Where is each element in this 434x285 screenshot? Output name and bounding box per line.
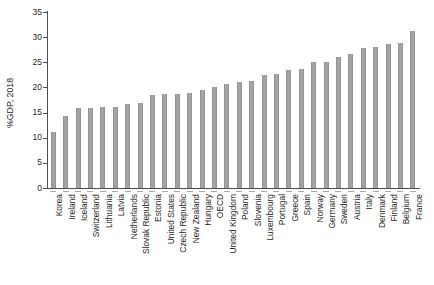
- y-tick-25: [43, 62, 47, 63]
- y-tick-label-0: 0: [16, 184, 42, 193]
- y-tick-20: [43, 87, 47, 88]
- bar-spain: [299, 69, 304, 188]
- x-tick-united-states: [162, 191, 168, 192]
- x-label-slovak-republic: Slovak Republic: [140, 194, 152, 279]
- x-label-luxembourg: Luxembourg: [264, 194, 276, 279]
- x-tick-germany: [323, 191, 329, 192]
- bar-new-zealand: [187, 93, 192, 188]
- bar-united-states: [162, 94, 167, 188]
- x-tick-oecd: [211, 191, 217, 192]
- x-tick-austria: [348, 191, 354, 192]
- x-tick-slovenia: [249, 191, 255, 192]
- x-tick-united-kingdom: [224, 191, 230, 192]
- x-tick-poland: [236, 191, 242, 192]
- x-label-austria: Austria: [351, 194, 363, 279]
- x-label-germany: Germany: [326, 194, 338, 279]
- y-tick-10: [43, 138, 47, 139]
- bar-luxembourg: [262, 75, 267, 188]
- x-label-ireland: Ireland: [66, 194, 78, 279]
- x-tick-luxembourg: [261, 191, 267, 192]
- x-label-norway: Norway: [314, 194, 326, 279]
- x-tick-czech-republic: [174, 191, 180, 192]
- y-axis-title: %GDP, 2018: [4, 58, 16, 148]
- x-tick-france: [410, 191, 416, 192]
- bar-oecd: [212, 87, 217, 188]
- x-tick-iceland: [75, 191, 81, 192]
- x-tick-latvia: [112, 191, 118, 192]
- x-tick-estonia: [149, 191, 155, 192]
- x-label-italy: Italy: [363, 194, 375, 279]
- y-tick-label-35: 35: [16, 8, 42, 17]
- x-label-new-zealand: New Zealand: [190, 194, 202, 279]
- x-label-belgium: Belgium: [400, 194, 412, 279]
- bar-switzerland: [88, 108, 93, 188]
- x-label-united-kingdom: United Kingdom: [227, 194, 239, 279]
- bar-czech-republic: [175, 94, 180, 188]
- y-tick-label-20: 20: [16, 83, 42, 92]
- bar-estonia: [150, 95, 155, 188]
- x-label-greece: Greece: [289, 194, 301, 279]
- bar-united-kingdom: [224, 84, 229, 188]
- x-tick-ireland: [63, 191, 69, 192]
- x-tick-slovak-republic: [137, 191, 143, 192]
- bar-latvia: [113, 107, 118, 188]
- bar-belgium: [398, 43, 403, 188]
- x-label-iceland: Iceland: [78, 194, 90, 279]
- bar-slovenia: [249, 81, 254, 188]
- x-label-poland: Poland: [239, 194, 251, 279]
- x-label-latvia: Latvia: [115, 194, 127, 279]
- x-tick-new-zealand: [187, 191, 193, 192]
- x-label-lithuania: Lithuania: [103, 194, 115, 279]
- bar-netherlands: [125, 104, 130, 188]
- x-tick-denmark: [373, 191, 379, 192]
- x-label-estonia: Estonia: [152, 194, 164, 279]
- x-label-united-states: United States: [165, 194, 177, 279]
- y-tick-label-30: 30: [16, 33, 42, 42]
- bar-iceland: [76, 108, 81, 188]
- y-tick-label-5: 5: [16, 158, 42, 167]
- y-tick-15: [43, 113, 47, 114]
- x-tick-netherlands: [125, 191, 131, 192]
- x-tick-korea: [50, 191, 56, 192]
- x-tick-lithuania: [100, 191, 106, 192]
- x-label-france: France: [413, 194, 425, 279]
- x-tick-greece: [286, 191, 292, 192]
- x-tick-norway: [311, 191, 317, 192]
- y-tick-5: [43, 163, 47, 164]
- bar-chart: %GDP, 2018 05101520253035 KoreaIrelandIc…: [0, 0, 434, 285]
- bar-denmark: [373, 47, 378, 188]
- y-tick-0: [43, 188, 47, 189]
- bar-germany: [324, 62, 329, 188]
- y-tick-label-25: 25: [16, 58, 42, 67]
- bar-portugal: [274, 74, 279, 188]
- y-tick-label-15: 15: [16, 108, 42, 117]
- bar-sweden: [336, 57, 341, 188]
- y-axis-line: [47, 11, 48, 189]
- bar-lithuania: [100, 107, 105, 188]
- bar-france: [410, 31, 415, 188]
- x-label-portugal: Portugal: [276, 194, 288, 279]
- x-label-sweden: Sweden: [338, 194, 350, 279]
- bar-finland: [386, 44, 391, 188]
- x-label-finland: Finland: [388, 194, 400, 279]
- bar-slovak-republic: [138, 103, 143, 188]
- x-label-slovenia: Slovenia: [252, 194, 264, 279]
- bar-austria: [348, 54, 353, 188]
- y-tick-30: [43, 37, 47, 38]
- bar-greece: [286, 70, 291, 188]
- x-label-denmark: Denmark: [376, 194, 388, 279]
- x-label-oecd: OECD: [214, 194, 226, 279]
- bar-korea: [51, 132, 56, 188]
- bar-italy: [361, 48, 366, 188]
- bar-hungary: [200, 90, 205, 188]
- x-label-switzerland: Switzerland: [90, 194, 102, 279]
- x-label-korea: Korea: [53, 194, 65, 279]
- x-label-czech-republic: Czech Republic: [177, 194, 189, 279]
- y-tick-label-10: 10: [16, 133, 42, 142]
- x-label-netherlands: Netherlands: [128, 194, 140, 279]
- x-tick-italy: [360, 191, 366, 192]
- x-label-hungary: Hungary: [202, 194, 214, 279]
- x-tick-spain: [298, 191, 304, 192]
- x-tick-hungary: [199, 191, 205, 192]
- x-tick-switzerland: [87, 191, 93, 192]
